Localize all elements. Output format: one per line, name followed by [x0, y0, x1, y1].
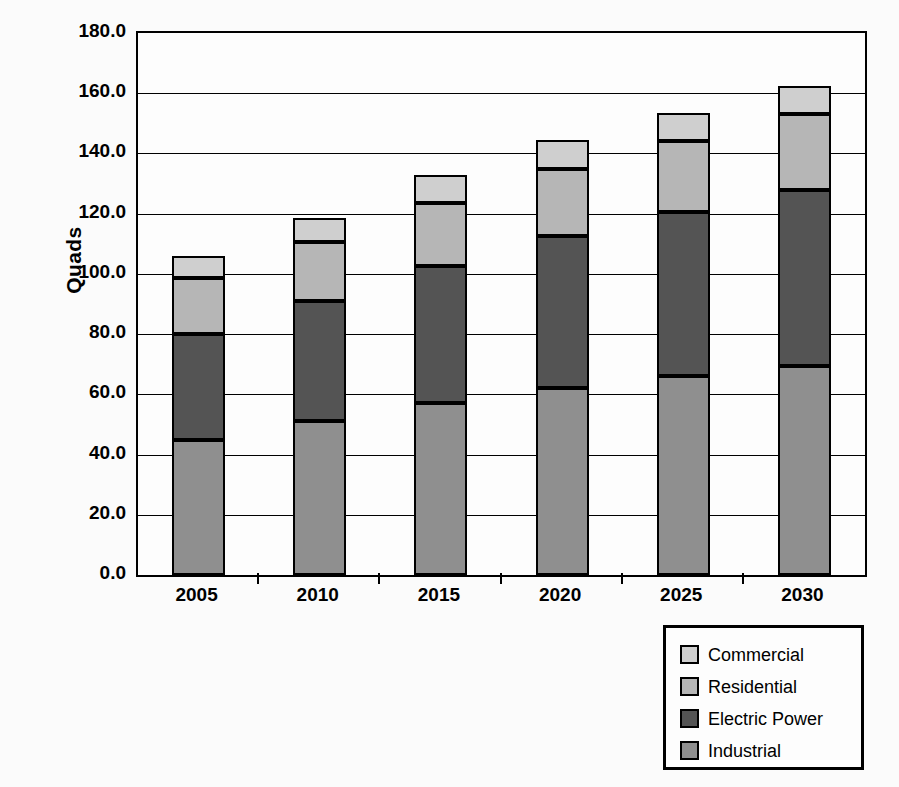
bar-segment-industrial	[172, 440, 225, 576]
bar-segment-electric-power	[414, 266, 467, 403]
gridline	[138, 455, 865, 456]
bar-segment-residential	[778, 114, 831, 189]
legend-swatch-icon	[680, 709, 699, 728]
y-tick-label: 80.0	[40, 321, 126, 343]
x-tick-mark	[257, 573, 259, 584]
y-tick-label: 100.0	[40, 261, 126, 283]
bar-stack	[778, 33, 831, 575]
bar-segment-commercial	[778, 86, 831, 115]
y-tick-label: 120.0	[40, 201, 126, 223]
gridline	[138, 214, 865, 215]
legend-item: Electric Power	[680, 703, 861, 734]
gridline	[138, 274, 865, 275]
bar-segment-electric-power	[536, 236, 589, 388]
legend-label: Residential	[708, 678, 797, 696]
x-tick-label: 2020	[539, 584, 581, 606]
bar-stack	[657, 33, 710, 575]
plot-area	[136, 31, 867, 577]
bar-segment-commercial	[414, 175, 467, 204]
legend-swatch-icon	[680, 645, 699, 664]
chart-figure: Quads 180.0160.0140.0120.0100.080.060.04…	[0, 0, 899, 787]
x-tick-mark	[500, 573, 502, 584]
bar-segment-residential	[414, 203, 467, 266]
x-axis-tick-labels: 200520102015202020252030	[136, 584, 863, 612]
gridline	[138, 334, 865, 335]
legend-label: Commercial	[708, 646, 804, 664]
bar-stack	[414, 33, 467, 575]
legend-label: Industrial	[708, 742, 781, 760]
bar-segment-residential	[172, 278, 225, 334]
x-tick-mark	[621, 573, 623, 584]
chart-legend: CommercialResidentialElectric PowerIndus…	[663, 625, 864, 770]
bar-stack	[536, 33, 589, 575]
legend-swatch-icon	[680, 741, 699, 760]
legend-item: Commercial	[680, 639, 861, 670]
bar-segment-commercial	[172, 256, 225, 279]
bar-segment-electric-power	[657, 212, 710, 376]
bar-stack	[172, 33, 225, 575]
bar-segment-commercial	[536, 140, 589, 169]
legend-swatch-icon	[680, 677, 699, 696]
y-tick-label: 160.0	[40, 80, 126, 102]
bar-segment-commercial	[293, 218, 346, 242]
gridline	[138, 394, 865, 395]
y-axis-tick-labels: 180.0160.0140.0120.0100.080.060.040.020.…	[30, 31, 126, 573]
bar-segment-industrial	[657, 376, 710, 575]
bar-segment-industrial	[414, 403, 467, 575]
bar-segment-industrial	[536, 388, 589, 575]
legend-item: Residential	[680, 671, 861, 702]
x-tick-label: 2025	[660, 584, 702, 606]
y-tick-label: 60.0	[40, 381, 126, 403]
x-tick-label: 2010	[297, 584, 339, 606]
x-tick-label: 2005	[175, 584, 217, 606]
bar-segment-electric-power	[778, 190, 831, 366]
gridline	[138, 153, 865, 154]
bar-stack	[293, 33, 346, 575]
plot-inner	[138, 33, 865, 575]
bar-segment-residential	[293, 242, 346, 301]
y-tick-label: 0.0	[40, 562, 126, 584]
bar-segment-industrial	[293, 421, 346, 575]
y-tick-label: 180.0	[40, 20, 126, 42]
y-tick-label: 140.0	[40, 140, 126, 162]
gridline	[138, 93, 865, 94]
bar-segment-residential	[536, 169, 589, 237]
gridline	[138, 515, 865, 516]
y-tick-label: 40.0	[40, 442, 126, 464]
bar-segment-commercial	[657, 113, 710, 142]
legend-label: Electric Power	[708, 710, 823, 728]
x-tick-mark	[378, 573, 380, 584]
bar-segment-electric-power	[172, 334, 225, 439]
bar-segment-residential	[657, 141, 710, 212]
y-tick-label: 20.0	[40, 502, 126, 524]
x-tick-mark	[742, 573, 744, 584]
x-tick-label: 2030	[781, 584, 823, 606]
legend-item: Industrial	[680, 735, 861, 766]
bar-segment-industrial	[778, 366, 831, 575]
x-tick-label: 2015	[418, 584, 460, 606]
bar-segment-electric-power	[293, 301, 346, 421]
